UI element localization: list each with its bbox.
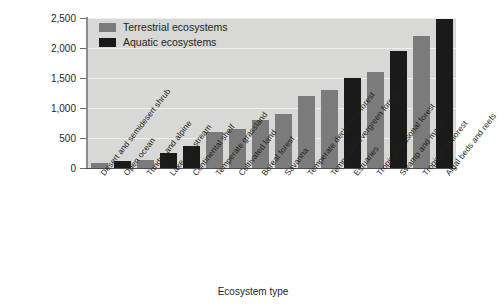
y-tick-label: 2,000 [10, 43, 76, 54]
legend-item-terrestrial: Terrestrial ecosystems [99, 20, 227, 34]
legend-label-aquatic: Aquatic ecosystems [123, 36, 216, 48]
legend-swatch-aquatic-icon [99, 38, 116, 47]
y-tick-label: 1,500 [10, 73, 76, 84]
x-axis-title-text: Ecosystem type [218, 286, 289, 297]
legend-label-terrestrial: Terrestrial ecosystems [123, 21, 227, 33]
y-tick-label: 0 [10, 163, 76, 174]
y-tick-label: 500 [10, 133, 76, 144]
chart-legend: Terrestrial ecosystems Aquatic ecosystem… [99, 20, 227, 50]
y-tick-label: 1,000 [10, 103, 76, 114]
x-axis-title: Ecosystem type [0, 286, 462, 297]
gridline [88, 18, 456, 19]
legend-item-aquatic: Aquatic ecosystems [99, 35, 227, 49]
legend-swatch-terrestrial-icon [99, 23, 116, 32]
y-tick-label: 2,500 [10, 13, 76, 24]
